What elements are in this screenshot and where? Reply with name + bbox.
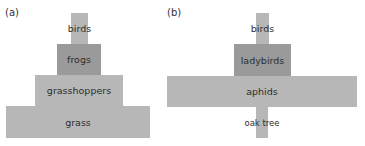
level-label: birds: [251, 23, 274, 34]
level-oak-tree: oak tree: [256, 107, 268, 138]
level-grasshoppers: grasshoppers: [35, 75, 123, 106]
level-frogs: frogs: [57, 44, 101, 75]
level-label: birds: [68, 23, 91, 34]
level-label: oak tree: [244, 118, 279, 128]
level-grass: grass: [6, 106, 150, 138]
level-birds-a: birds: [71, 13, 88, 44]
panel-a-label: (a): [5, 7, 19, 18]
panel-b-label: (b): [167, 7, 181, 18]
level-birds-b: birds: [256, 13, 269, 44]
level-label: aphids: [246, 86, 278, 97]
level-ladybirds: ladybirds: [234, 44, 291, 76]
level-label: grass: [65, 117, 91, 128]
level-aphids: aphids: [167, 76, 357, 107]
level-label: grasshoppers: [47, 85, 111, 96]
level-label: frogs: [67, 54, 91, 65]
level-label: ladybirds: [241, 55, 285, 66]
